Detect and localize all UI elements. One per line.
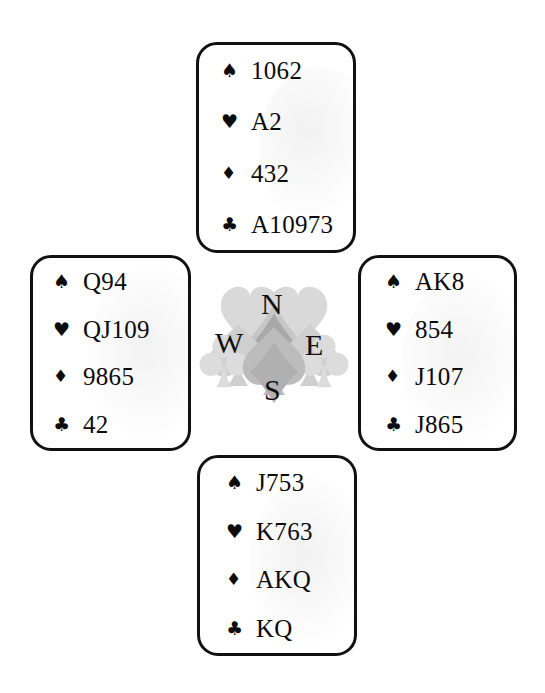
spade-icon: ♠ xyxy=(385,272,415,291)
bridge-hand-diagram: ♠ 1062 ♥ A2 ♦ 432 ♣ A10973 ♠ Q94 xyxy=(0,0,545,693)
spade-icon: ♠ xyxy=(53,272,83,291)
hand-row-east-hearts: ♥ 854 xyxy=(361,306,514,354)
hand-row-south-hearts: ♥ K763 xyxy=(200,507,354,556)
south-hearts-cards: K763 xyxy=(256,519,313,544)
hand-row-north-diamonds: ♦ 432 xyxy=(199,148,353,199)
compass-label-north: N xyxy=(261,289,283,319)
hand-row-west-diamonds: ♦ 9865 xyxy=(33,353,188,401)
spade-icon: ♠ xyxy=(221,61,251,80)
club-icon: ♣ xyxy=(226,619,256,638)
compass-label-south: S xyxy=(264,375,281,405)
club-icon: ♣ xyxy=(221,215,251,234)
north-diamonds-cards: 432 xyxy=(251,161,289,186)
diamond-icon: ♦ xyxy=(226,571,256,588)
hand-row-south-spades: ♠ J753 xyxy=(200,458,354,507)
heart-icon: ♥ xyxy=(226,522,256,541)
west-clubs-cards: 42 xyxy=(83,412,109,437)
east-clubs-cards: J865 xyxy=(415,412,463,437)
hand-row-north-hearts: ♥ A2 xyxy=(199,96,353,147)
hand-row-east-spades: ♠ AK8 xyxy=(361,258,514,306)
hand-row-south-diamonds: ♦ AKQ xyxy=(200,556,354,605)
hand-row-west-clubs: ♣ 42 xyxy=(33,401,188,449)
west-diamonds-cards: 9865 xyxy=(83,364,134,389)
east-spades-cards: AK8 xyxy=(415,269,465,294)
hand-row-east-diamonds: ♦ J107 xyxy=(361,353,514,401)
heart-icon: ♥ xyxy=(385,320,415,339)
south-spades-cards: J753 xyxy=(256,470,304,495)
east-diamonds-cards: J107 xyxy=(415,364,463,389)
east-hearts-cards: 854 xyxy=(415,317,453,342)
compass-rose: N W E S xyxy=(198,268,350,433)
hand-row-west-spades: ♠ Q94 xyxy=(33,258,188,306)
compass-label-west: W xyxy=(215,328,243,358)
spade-icon: ♠ xyxy=(226,473,256,492)
club-icon: ♣ xyxy=(53,415,83,434)
west-spades-cards: Q94 xyxy=(83,269,127,294)
hand-box-north: ♠ 1062 ♥ A2 ♦ 432 ♣ A10973 xyxy=(196,42,356,253)
south-diamonds-cards: AKQ xyxy=(256,567,311,592)
heart-icon: ♥ xyxy=(53,320,83,339)
diamond-icon: ♦ xyxy=(53,368,83,385)
hand-row-west-hearts: ♥ QJ109 xyxy=(33,306,188,354)
hand-row-east-clubs: ♣ J865 xyxy=(361,401,514,449)
north-hearts-cards: A2 xyxy=(251,109,282,134)
hand-box-south: ♠ J753 ♥ K763 ♦ AKQ ♣ KQ xyxy=(197,455,357,656)
heart-icon: ♥ xyxy=(221,112,251,131)
south-clubs-cards: KQ xyxy=(256,616,293,641)
north-clubs-cards: A10973 xyxy=(251,212,333,237)
hand-box-east: ♠ AK8 ♥ 854 ♦ J107 ♣ J865 xyxy=(358,255,517,451)
north-spades-cards: 1062 xyxy=(251,58,302,83)
west-hearts-cards: QJ109 xyxy=(83,317,150,342)
hand-row-north-clubs: ♣ A10973 xyxy=(199,199,353,250)
hand-row-north-spades: ♠ 1062 xyxy=(199,45,353,96)
diamond-icon: ♦ xyxy=(221,165,251,182)
club-icon: ♣ xyxy=(385,415,415,434)
hand-row-south-clubs: ♣ KQ xyxy=(200,604,354,653)
diamond-icon: ♦ xyxy=(385,368,415,385)
hand-box-west: ♠ Q94 ♥ QJ109 ♦ 9865 ♣ 42 xyxy=(30,255,191,451)
compass-label-east: E xyxy=(305,330,323,360)
